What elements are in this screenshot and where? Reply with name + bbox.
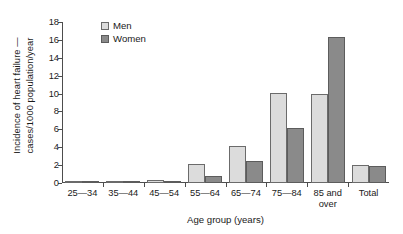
bar-group (348, 22, 389, 183)
bar-men (270, 93, 287, 183)
x-axis-tick-mark (348, 183, 349, 187)
bar-group (144, 22, 185, 183)
x-axis-tick-label-line-2: over (307, 199, 348, 210)
bar-men (65, 181, 82, 183)
y-axis-tick-label: 10 (49, 89, 59, 99)
bar-men (106, 181, 123, 183)
x-axis-tick-label: 65—74 (226, 188, 267, 199)
bar-group (62, 22, 103, 183)
bar-groups (62, 22, 389, 183)
bar-group (103, 22, 144, 183)
y-axis-title-line-1: Incidence of heart failure — (11, 37, 24, 153)
chart-legend: Men Women (101, 19, 146, 45)
y-axis-title-line-2: cases/1000 population/year (23, 37, 36, 153)
legend-swatch-women-icon (101, 35, 109, 43)
x-axis-tick-label-line-1: Total (359, 188, 379, 198)
legend-label-women: Women (113, 33, 146, 44)
y-axis-tick-label: 0 (54, 178, 59, 188)
bar-women (164, 181, 181, 183)
x-axis-tick-label-line-1: 55—64 (190, 188, 220, 198)
x-axis-tick-label: 25—34 (62, 188, 103, 199)
bar-women (82, 181, 99, 183)
bar-women (205, 176, 222, 183)
x-axis-tick-label: 55—64 (185, 188, 226, 199)
y-axis-tick-label: 16 (49, 35, 59, 45)
x-axis-tick-label-line-1: 45—54 (149, 188, 179, 198)
bar-group (185, 22, 226, 183)
bar-women (123, 181, 140, 183)
x-axis-tick-label: 85 andover (307, 188, 348, 209)
bar-group (266, 22, 307, 183)
bar-men (311, 94, 328, 183)
bar-men (352, 165, 369, 183)
x-axis-tick-label: 35—44 (103, 188, 144, 199)
x-axis-tick-mark (185, 183, 186, 187)
bar-men (229, 146, 246, 183)
bar-women (328, 37, 345, 183)
x-axis-tick-label-line-1: 35—44 (108, 188, 138, 198)
bar-men (188, 164, 205, 183)
bar-women (246, 161, 263, 183)
x-axis-tick-mark (103, 183, 104, 187)
x-axis-tick-label: 75—84 (266, 188, 307, 199)
x-axis-tick-mark (144, 183, 145, 187)
x-axis-tick-label-line-1: 85 and (313, 188, 341, 198)
x-axis-title: Age group (years) (62, 214, 389, 225)
x-axis-tick-label-line-1: 65—74 (231, 188, 261, 198)
y-axis-tick-label: 2 (54, 160, 59, 170)
chart-figure: Incidence of heart failure — cases/1000 … (0, 0, 403, 234)
plot-area: 024681012141618 (62, 22, 389, 183)
y-axis-tick-label: 18 (49, 17, 59, 27)
legend-item-women: Women (101, 32, 146, 45)
y-axis-tick-label: 14 (49, 53, 59, 63)
bar-group (307, 22, 348, 183)
x-axis-tick-mark (266, 183, 267, 187)
y-axis-tick-label: 4 (54, 142, 59, 152)
bar-women (287, 128, 304, 183)
legend-label-men: Men (113, 20, 132, 31)
x-axis-tick-label: 45—54 (144, 188, 185, 199)
bar-group (226, 22, 267, 183)
y-axis-tick-label: 8 (54, 106, 59, 116)
x-axis-tick-label-line-1: 75—84 (272, 188, 302, 198)
bar-men (147, 180, 164, 183)
x-axis-tick-label: Total (348, 188, 389, 199)
x-axis-tick-label-line-1: 25—34 (67, 188, 97, 198)
y-axis-title: Incidence of heart failure — cases/1000 … (0, 0, 46, 190)
bar-women (369, 166, 386, 183)
x-axis-tick-mark (307, 183, 308, 187)
legend-item-men: Men (101, 19, 146, 32)
legend-swatch-men-icon (101, 22, 109, 30)
y-axis-tick-label: 12 (49, 71, 59, 81)
x-axis-tick-mark (226, 183, 227, 187)
y-axis-tick-label: 6 (54, 124, 59, 134)
